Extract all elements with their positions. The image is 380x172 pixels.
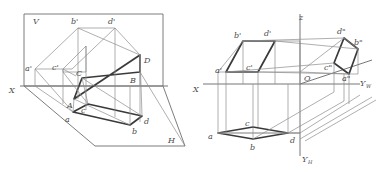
label-point-d-left: d bbox=[144, 117, 149, 126]
label-point-d-right: d bbox=[290, 136, 295, 145]
right-panel-group: z X O Y W Y H a' b' c' d' a" b" c" d" a … bbox=[192, 13, 376, 165]
label-point-a-prime-right: a' bbox=[215, 66, 222, 75]
label-point-b-left: b bbox=[132, 127, 137, 136]
oblique-connectors-left bbox=[35, 28, 185, 146]
label-axis-yh: Y H bbox=[302, 155, 313, 165]
label-axis-x-left: X bbox=[8, 86, 15, 95]
label-point-d-prime-left: d' bbox=[108, 17, 115, 26]
label-point-c-dblprime-right: c" bbox=[324, 63, 332, 72]
drawing-canvas: V H X a' b' c' d' A B C D a b c d bbox=[0, 0, 380, 172]
label-point-a-prime-left: a' bbox=[25, 64, 32, 73]
label-axis-yw: Y W bbox=[360, 79, 372, 89]
label-point-A-left: A bbox=[66, 101, 73, 110]
label-axis-yh-sub: H bbox=[307, 159, 313, 165]
label-point-c-prime-left: c' bbox=[52, 63, 59, 72]
label-axis-x-right: X bbox=[192, 85, 199, 94]
label-point-d-prime-right: d' bbox=[264, 29, 271, 38]
frontal-projection-left bbox=[35, 28, 115, 69]
label-point-c-left: c bbox=[81, 106, 86, 115]
label-point-D-left: D bbox=[143, 56, 151, 65]
label-point-a-dblprime-right: a" bbox=[342, 74, 350, 83]
label-point-B-left: B bbox=[129, 76, 136, 85]
transfer-lines-right bbox=[300, 63, 376, 141]
left-panel-group: V H X a' b' c' d' A B C D a b c d bbox=[8, 14, 185, 146]
label-point-b-dblprime-right: b" bbox=[354, 38, 363, 47]
label-point-C-left: C bbox=[76, 69, 82, 78]
label-point-c-prime-right: c' bbox=[246, 63, 253, 72]
label-axis-yw-sub: W bbox=[366, 83, 372, 89]
label-point-b-right: b bbox=[250, 143, 255, 152]
label-axis-z-right: z bbox=[298, 13, 304, 22]
label-plane-h: H bbox=[167, 136, 176, 145]
label-point-d-dblprime-right: d" bbox=[337, 27, 346, 36]
label-plane-v: V bbox=[33, 17, 40, 26]
projection-drawing-figure: V H X a' b' c' d' A B C D a b c d bbox=[0, 0, 380, 172]
label-point-c-right: c bbox=[245, 119, 250, 128]
label-point-b-prime-left: b' bbox=[71, 17, 78, 26]
label-point-a-right: a bbox=[208, 132, 213, 141]
label-point-a-left: a bbox=[65, 115, 70, 124]
label-point-b-prime-right: b' bbox=[234, 31, 241, 40]
label-origin-o: O bbox=[304, 74, 311, 83]
